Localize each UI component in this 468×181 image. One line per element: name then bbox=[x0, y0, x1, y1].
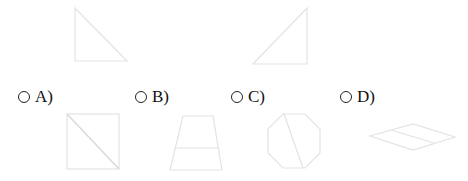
option-d[interactable]: D) bbox=[340, 88, 375, 106]
radio-icon[interactable] bbox=[18, 91, 30, 103]
option-c[interactable]: C) bbox=[231, 88, 265, 106]
option-b-figure bbox=[170, 116, 222, 170]
option-d-label: D) bbox=[357, 88, 375, 106]
radio-icon[interactable] bbox=[231, 91, 243, 103]
option-a-figure bbox=[67, 114, 119, 169]
radio-icon[interactable] bbox=[340, 91, 352, 103]
right-triangle-left-figure bbox=[75, 8, 127, 61]
option-a[interactable]: A) bbox=[18, 88, 53, 106]
option-c-figure bbox=[268, 114, 320, 168]
option-b[interactable]: B) bbox=[135, 88, 169, 106]
option-a-label: A) bbox=[35, 88, 53, 106]
option-c-label: C) bbox=[248, 88, 265, 106]
right-triangle-right-figure bbox=[253, 8, 307, 64]
option-d-figure bbox=[370, 124, 455, 150]
option-b-label: B) bbox=[152, 88, 169, 106]
radio-icon[interactable] bbox=[135, 91, 147, 103]
